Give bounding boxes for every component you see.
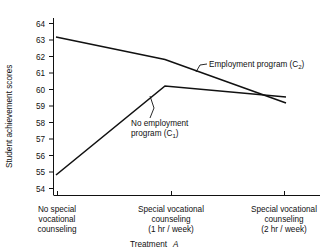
series-label-no-employment-program-close: ) <box>176 129 179 138</box>
y-tick-label: 61 <box>36 69 46 78</box>
x-category-label-2-line-2: (2 hr / week) <box>261 225 307 234</box>
y-tick-label: 58 <box>36 119 46 128</box>
x-category-label-1-line-1: counseling <box>151 215 191 224</box>
y-axis-tick-labels: 64 63 62 61 60 59 58 57 56 55 54 <box>36 20 46 194</box>
x-category-label-2-line-0: Special vocational <box>251 205 317 214</box>
x-axis-ticks <box>58 191 285 196</box>
y-tick-label: 64 <box>36 20 46 29</box>
x-category-label-1-line-2: (1 hr / week) <box>148 225 194 234</box>
x-axis-title-text: Treatment <box>130 240 168 249</box>
x-category-label-1-line-0: Special vocational <box>138 205 204 214</box>
x-axis-category-labels: No special vocational counseling Special… <box>37 205 317 234</box>
y-tick-label: 56 <box>36 152 46 161</box>
x-axis-title: TreatmentA <box>130 240 179 249</box>
y-tick-label: 54 <box>36 185 46 194</box>
y-tick-label: 62 <box>36 53 46 62</box>
line-chart: 64 63 62 61 60 59 58 57 56 55 54 Employm… <box>0 0 327 252</box>
y-tick-label: 60 <box>36 86 46 95</box>
x-category-label-2-line-1: counseling <box>264 215 304 224</box>
series-label-employment-program-text: Employment program (C <box>209 60 298 69</box>
series-label-no-employment-program-line1: No employment <box>131 119 189 128</box>
x-category-label-0-line-0: No special <box>38 205 76 214</box>
chart-container: 64 63 62 61 60 59 58 57 56 55 54 Employm… <box>0 0 327 252</box>
y-axis-ticks <box>49 24 54 189</box>
y-axis-title: Student achievement scores <box>5 65 14 168</box>
series-label-no-employment-program-text: program (C <box>131 129 172 138</box>
series-label-employment-program-close: ) <box>302 60 305 69</box>
leader-line-no-employment-program <box>150 96 154 118</box>
x-category-label-0-line-2: counseling <box>37 225 77 234</box>
y-tick-label: 63 <box>36 36 46 45</box>
series-label-employment-program: Employment program (C2) <box>209 60 305 70</box>
series-label-no-employment-program-line2: program (C1) <box>131 129 179 139</box>
y-tick-label: 55 <box>36 168 46 177</box>
y-tick-label: 59 <box>36 102 46 111</box>
x-axis-title-symbol: A <box>172 240 179 249</box>
x-category-label-0-line-1: vocational <box>39 215 76 224</box>
y-tick-label: 57 <box>36 135 46 144</box>
